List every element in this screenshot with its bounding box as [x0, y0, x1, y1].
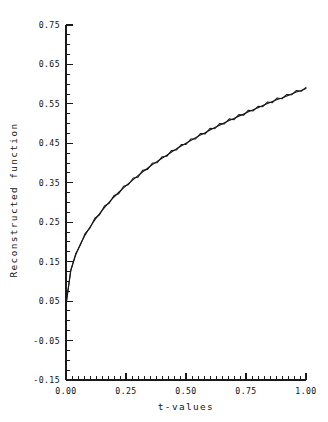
y-tick-label: 0.25 — [39, 217, 60, 227]
x-tick-label: 1.00 — [295, 386, 316, 396]
curve-true-function — [66, 89, 306, 306]
curve-reconstruction — [66, 87, 306, 304]
y-tick-label: 0.55 — [39, 99, 60, 109]
x-tick-label: 0.25 — [115, 386, 136, 396]
y-tick-label: -0.15 — [33, 375, 60, 385]
x-axis-title: t-values — [158, 401, 214, 412]
reconstructed-function-plot: -0.15-0.050.050.150.250.350.450.550.650.… — [0, 0, 328, 422]
x-axis-group: 0.000.250.500.751.00 — [55, 373, 316, 396]
x-tick-label: 0.50 — [175, 386, 196, 396]
x-tick-label: 0.00 — [55, 386, 76, 396]
y-tick-label: 0.35 — [39, 178, 60, 188]
y-tick-label: 0.65 — [39, 59, 60, 69]
y-tick-label: 0.75 — [39, 20, 60, 30]
y-tick-label: 0.05 — [39, 296, 60, 306]
y-axis-title: Reconstructed function — [8, 123, 19, 278]
x-tick-label: 0.75 — [235, 386, 256, 396]
y-tick-label: 0.45 — [39, 138, 60, 148]
chart-page: -0.15-0.050.050.150.250.350.450.550.650.… — [0, 0, 328, 422]
y-tick-label: 0.15 — [39, 257, 60, 267]
plot-curves — [66, 87, 306, 305]
y-tick-label: -0.05 — [33, 336, 60, 346]
y-axis-group: -0.15-0.050.050.150.250.350.450.550.650.… — [33, 20, 73, 385]
